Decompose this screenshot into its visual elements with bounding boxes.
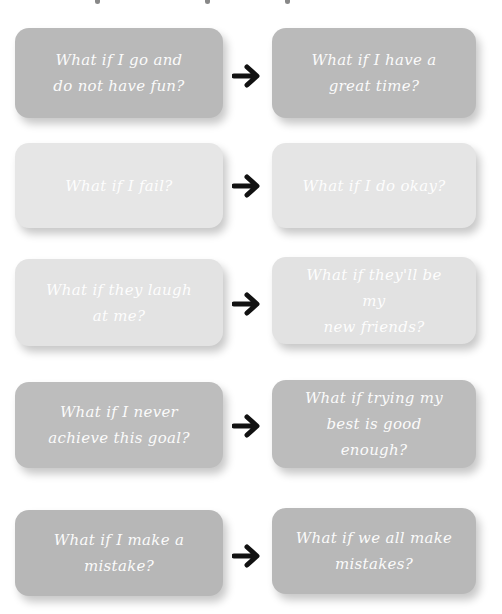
positive-thought-text: What if we all make mistakes? — [296, 525, 453, 577]
reframe-row-5: What if I make a mistake? What if we all… — [0, 510, 502, 600]
negative-thought-card: What if I go and do not have fun? — [15, 28, 223, 118]
positive-thought-card: What if I have a great time? — [272, 28, 476, 118]
right-arrow-icon — [232, 543, 264, 569]
reframe-row-3: What if they laugh at me? What if they'l… — [0, 259, 502, 349]
negative-thought-text: What if I go and do not have fun? — [53, 47, 184, 99]
negative-thought-text: What if I fail? — [65, 173, 172, 199]
positive-thought-card: What if trying my best is good enough? — [272, 380, 476, 468]
negative-thought-card: What if I never achieve this goal? — [15, 382, 223, 468]
negative-thought-text: What if I never achieve this goal? — [48, 399, 190, 451]
negative-thought-card: What if I make a mistake? — [15, 510, 223, 596]
reframe-row-4: What if I never achieve this goal? What … — [0, 382, 502, 470]
positive-thought-card: What if they'll be my new friends? — [272, 257, 476, 344]
reframe-row-1: What if I go and do not have fun? What i… — [0, 28, 502, 120]
cropped-title-descenders — [0, 0, 502, 6]
positive-thought-text: What if I do okay? — [302, 173, 445, 199]
right-arrow-icon — [232, 413, 264, 439]
negative-thought-text: What if they laugh at me? — [46, 277, 192, 329]
negative-thought-card: What if I fail? — [15, 143, 223, 228]
reframe-row-2: What if I fail? What if I do okay? — [0, 143, 502, 231]
positive-thought-text: What if I have a great time? — [311, 47, 436, 99]
positive-thought-card: What if we all make mistakes? — [272, 508, 476, 594]
right-arrow-icon — [232, 63, 264, 89]
positive-thought-text: What if trying my best is good enough? — [294, 385, 454, 463]
right-arrow-icon — [232, 173, 264, 199]
positive-thought-card: What if I do okay? — [272, 143, 476, 228]
negative-thought-text: What if I make a mistake? — [54, 527, 184, 579]
positive-thought-text: What if they'll be my new friends? — [294, 262, 454, 340]
right-arrow-icon — [232, 291, 264, 317]
negative-thought-card: What if they laugh at me? — [15, 259, 223, 346]
